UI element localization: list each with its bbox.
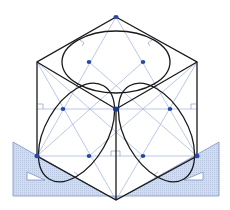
diagram-canvas [0, 0, 230, 210]
top-face-ellipse [62, 31, 170, 93]
point [87, 154, 92, 158]
point [194, 154, 199, 158]
point-top [113, 15, 118, 19]
point [168, 107, 173, 111]
isometric-cube-diagram [0, 0, 230, 210]
point [87, 60, 92, 64]
point [61, 107, 66, 111]
point [141, 154, 146, 158]
point [34, 154, 39, 158]
point-center [113, 106, 119, 111]
point [141, 60, 146, 64]
